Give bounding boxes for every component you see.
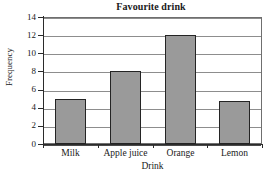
bar-milk bbox=[55, 99, 86, 144]
x-tick-label-milk: Milk bbox=[43, 148, 98, 159]
bar-apple-juice bbox=[110, 71, 141, 144]
x-tick-label-apple-juice: Apple juice bbox=[98, 148, 153, 159]
y-tick-6 bbox=[38, 90, 43, 91]
y-tick-label-14: 14 bbox=[6, 13, 36, 22]
y-tick-label-0: 0 bbox=[6, 140, 36, 149]
x-tick-4 bbox=[262, 144, 263, 148]
y-tick-label-2: 2 bbox=[6, 121, 36, 130]
bar-lemon bbox=[219, 101, 250, 144]
y-tick-10 bbox=[38, 53, 43, 54]
y-tick-2 bbox=[38, 126, 43, 127]
x-axis-title: Drink bbox=[43, 161, 262, 172]
bars-layer bbox=[43, 17, 262, 144]
y-tick-4 bbox=[38, 108, 43, 109]
bar-orange bbox=[165, 35, 196, 144]
y-tick-8 bbox=[38, 71, 43, 72]
y-axis-title: Frequency bbox=[4, 32, 14, 102]
chart-title: Favourite drink bbox=[40, 1, 262, 13]
y-tick-14 bbox=[38, 17, 43, 18]
bar-chart: Favourite drink 02468101214 Frequency Mi… bbox=[0, 0, 270, 176]
x-tick-label-orange: Orange bbox=[153, 148, 208, 159]
x-tick-label-lemon: Lemon bbox=[207, 148, 262, 159]
y-tick-12 bbox=[38, 35, 43, 36]
y-tick-label-4: 4 bbox=[6, 103, 36, 112]
